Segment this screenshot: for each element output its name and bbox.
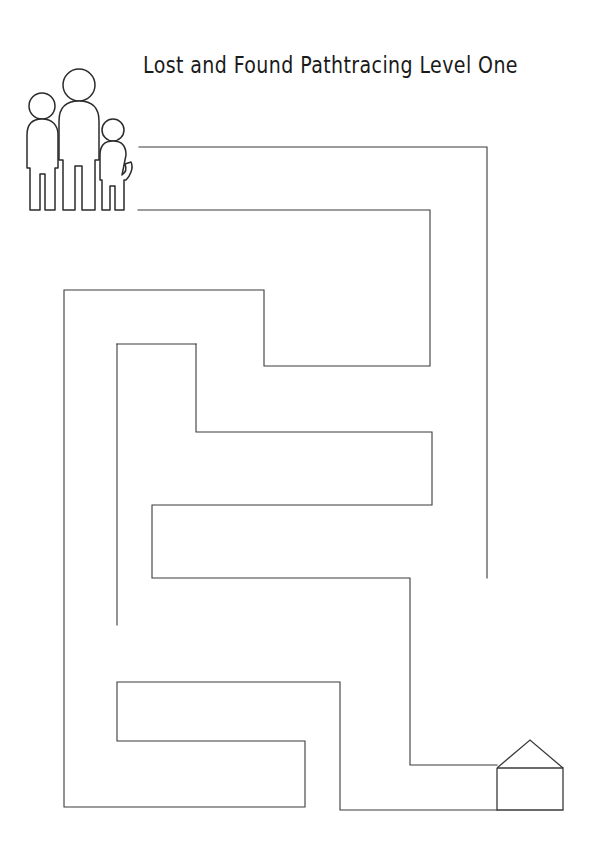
worksheet-page: Lost and Found Pathtracing Level One bbox=[0, 0, 597, 863]
maze-wall-w1 bbox=[139, 147, 487, 578]
house-roof bbox=[497, 740, 563, 768]
house-body bbox=[497, 768, 563, 810]
maze-walls bbox=[0, 0, 597, 863]
maze-wall-w2 bbox=[64, 210, 497, 810]
maze-wall-w3 bbox=[152, 344, 497, 765]
house bbox=[493, 738, 571, 814]
